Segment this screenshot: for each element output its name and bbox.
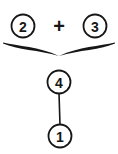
diagram-canvas: + 2 3 4 1	[0, 0, 118, 154]
node-2[interactable]: 2	[12, 15, 35, 38]
grouping-brace	[3, 43, 115, 57]
node-3-label: 3	[91, 19, 99, 35]
node-2-label: 2	[19, 19, 27, 35]
node-4-label: 4	[55, 75, 63, 91]
node-4[interactable]: 4	[48, 71, 71, 94]
plus-operator: +	[53, 15, 65, 37]
node-3[interactable]: 3	[84, 15, 107, 38]
connector-node4-node1	[59, 93, 60, 125]
diagram-svg: + 2 3 4 1	[0, 0, 118, 154]
node-1-label: 1	[56, 129, 64, 145]
node-1[interactable]: 1	[49, 125, 72, 148]
